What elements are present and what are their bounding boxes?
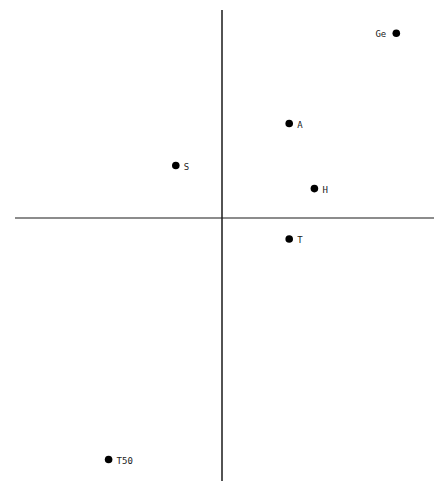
point-marker — [105, 456, 113, 464]
point-label: T50 — [117, 456, 133, 466]
scatter-plot: GeASHTT50 — [0, 0, 446, 488]
point-marker — [172, 162, 180, 170]
point-marker — [285, 120, 293, 128]
data-points: GeASHTT50 — [105, 29, 400, 465]
point-label: Ge — [375, 29, 386, 39]
point-label: A — [297, 120, 303, 130]
point-marker — [393, 29, 401, 37]
point-marker — [285, 235, 293, 243]
point-label: S — [184, 162, 189, 172]
point-h: H — [311, 185, 328, 195]
point-ge: Ge — [375, 29, 400, 39]
point-label: T — [297, 235, 303, 245]
point-label: H — [322, 185, 327, 195]
point-t: T — [285, 235, 303, 245]
point-s: S — [172, 162, 189, 172]
point-t50: T50 — [105, 456, 133, 466]
point-marker — [311, 185, 319, 193]
point-a: A — [285, 120, 303, 130]
